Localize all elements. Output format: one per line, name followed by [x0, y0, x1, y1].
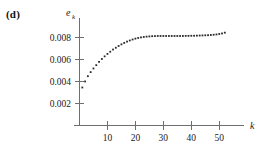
data-point [129, 40, 131, 42]
data-point [121, 43, 123, 45]
data-point [182, 35, 184, 37]
data-point [193, 35, 195, 37]
scatter-plot: 0.0020.0040.0060.008 e k 1020304050 k [0, 0, 260, 150]
data-point [207, 34, 209, 36]
data-point [171, 35, 173, 37]
data-point [81, 87, 83, 89]
x-tick-label: 20 [131, 133, 141, 143]
data-point [146, 36, 148, 38]
data-point [168, 35, 170, 37]
data-point [165, 35, 167, 37]
data-point [143, 36, 145, 38]
data-point [140, 37, 142, 39]
data-point [132, 39, 134, 41]
x-tick-labels: 1020304050 [103, 133, 225, 143]
data-point [218, 33, 220, 35]
data-point [115, 47, 117, 49]
data-point [107, 53, 109, 55]
data-point [216, 34, 218, 36]
data-point [190, 35, 192, 37]
y-axis-label-subscript: k [72, 13, 76, 21]
data-point [123, 42, 125, 44]
x-tick-label: 50 [214, 133, 224, 143]
y-tick-label: 0.002 [50, 99, 72, 109]
data-point [204, 34, 206, 36]
data-point [98, 61, 100, 63]
data-point [224, 32, 226, 34]
data-point [118, 45, 120, 47]
data-point [162, 35, 164, 37]
data-point [196, 35, 198, 37]
data-point [185, 35, 187, 37]
data-point [95, 64, 97, 66]
data-point [104, 55, 106, 57]
data-point [221, 33, 223, 35]
x-tick-label: 40 [187, 133, 197, 143]
data-point [202, 35, 204, 37]
y-axis-label: e [66, 7, 71, 18]
data-point [134, 38, 136, 40]
x-tick-label: 10 [103, 133, 113, 143]
data-point [84, 81, 86, 83]
data-point [160, 35, 162, 37]
x-axis-label: k [250, 120, 255, 131]
x-axis-group: 1020304050 k [74, 120, 255, 143]
data-point [199, 35, 201, 37]
data-point [109, 51, 111, 53]
data-point [93, 68, 95, 70]
y-tick-label: 0.004 [50, 77, 72, 87]
data-point [154, 35, 156, 37]
y-tick-labels: 0.0020.0040.0060.008 [50, 33, 72, 109]
data-point [137, 37, 139, 39]
data-series-points [81, 32, 225, 89]
data-point [213, 34, 215, 36]
data-point [188, 35, 190, 37]
data-point [151, 35, 153, 37]
data-point [176, 35, 178, 37]
data-point [90, 71, 92, 73]
data-point [112, 49, 114, 51]
data-point [174, 35, 176, 37]
y-tick-label: 0.008 [50, 33, 72, 43]
data-point [157, 35, 159, 37]
x-tick-label: 30 [159, 133, 169, 143]
data-point [210, 34, 212, 36]
data-point [101, 58, 103, 60]
y-axis-group: 0.0020.0040.0060.008 e k [50, 7, 84, 126]
figure-panel-d: (d) 0.0020.0040.0060.008 e k 1020304050 … [0, 0, 260, 150]
data-point [87, 75, 89, 77]
y-tick-label: 0.006 [50, 55, 72, 65]
data-point [179, 35, 181, 37]
data-point [148, 36, 150, 38]
data-point [126, 41, 128, 43]
